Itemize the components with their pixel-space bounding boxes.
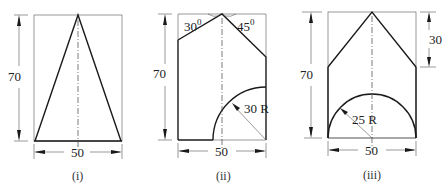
width-label: 50	[215, 144, 228, 159]
figure-iii: 25 R 70 30 50 (iii)	[300, 12, 442, 182]
height-label: 70	[8, 69, 21, 84]
arrow-left-icon	[328, 148, 339, 152]
figure-ii: 30 R 300 450 70 50 (ii)	[153, 14, 269, 183]
figure-i: 70 50 (i)	[8, 15, 122, 183]
height-label: 70	[300, 67, 313, 82]
diagram-canvas: 70 50 (i) 30 R 300 450	[0, 0, 448, 190]
width-label: 50	[365, 143, 378, 158]
arrow-up-icon	[309, 12, 313, 23]
angle-arc-left	[208, 14, 219, 16]
arrow-left-icon	[34, 150, 45, 154]
arrow-down-icon	[427, 57, 431, 67]
figure-caption: (ii)	[216, 169, 231, 183]
radius-arrow-icon	[232, 103, 240, 111]
arrow-right-icon	[111, 150, 122, 154]
height-label: 70	[153, 66, 166, 81]
arrow-left-icon	[178, 149, 189, 153]
angle-left-label: 300	[184, 17, 202, 34]
angle-right-label: 450	[237, 17, 255, 34]
angle-arc-right	[225, 14, 236, 16]
arrow-down-icon	[309, 127, 313, 138]
arrow-right-icon	[255, 149, 266, 153]
arrow-up-icon	[427, 12, 431, 22]
top-height-label: 30	[429, 32, 442, 47]
figure-caption: (iii)	[363, 168, 381, 182]
radius-label: 25 R	[352, 112, 377, 127]
figure-caption: (i)	[72, 169, 83, 183]
arrow-up-icon	[17, 15, 21, 26]
radius-label: 30 R	[244, 101, 269, 116]
arrow-up-icon	[163, 14, 167, 25]
arrow-right-icon	[405, 148, 416, 152]
width-label: 50	[71, 145, 84, 160]
radius-arrow-icon	[340, 108, 348, 115]
arrow-down-icon	[163, 129, 167, 140]
arrow-down-icon	[17, 130, 21, 141]
